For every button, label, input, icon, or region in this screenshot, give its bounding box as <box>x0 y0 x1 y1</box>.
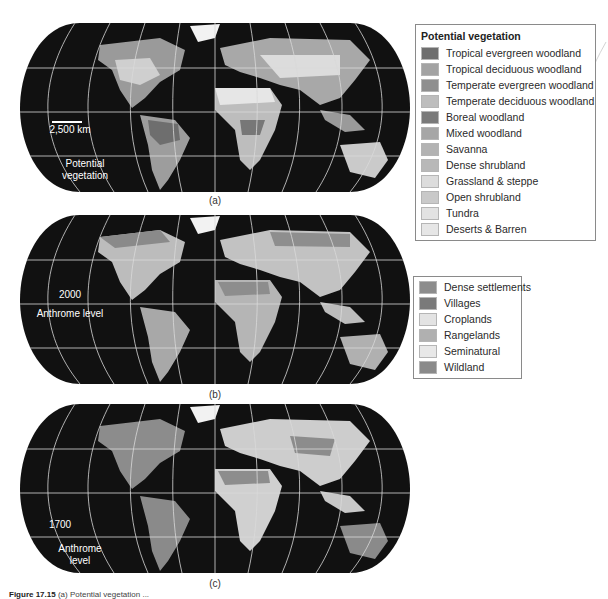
swatch-tropical-evergreen <box>421 47 439 60</box>
legend-item: Mixed woodland <box>421 125 591 141</box>
map-c-subtitle-line1: Anthrome <box>50 543 110 555</box>
map-a-title-line2: vegetation <box>50 170 120 182</box>
legend-item: Tropical evergreen woodland <box>421 45 591 61</box>
map-a-title-line1: Potential <box>50 158 120 170</box>
legend-item: Tundra <box>421 205 591 221</box>
legend-item: Rangelands <box>419 327 517 343</box>
swatch-dense-shrubland <box>421 159 439 172</box>
scale-bar <box>52 121 82 123</box>
swatch-wildland <box>419 361 437 374</box>
legend-item: Wildland <box>419 359 517 375</box>
figure-caption: Figure 17.15 (a) Potential vegetation ..… <box>9 590 149 599</box>
panel-label-b: (b) <box>195 389 235 400</box>
swatch-temperate-deciduous <box>421 95 439 108</box>
legend-anthromes: Dense settlements Villages Croplands Ran… <box>413 276 522 379</box>
swatch-boreal <box>421 111 439 124</box>
legend-item: Savanna <box>421 141 591 157</box>
legend-item: Croplands <box>419 311 517 327</box>
panel-label-a: (a) <box>195 195 235 206</box>
legend-item: Seminatural <box>419 343 517 359</box>
swatch-deserts <box>421 223 439 236</box>
legend-item: Temperate evergreen woodland <box>421 77 591 93</box>
swatch-croplands <box>419 313 437 326</box>
map-c-year: 1700 <box>40 519 80 531</box>
figure-number: Figure 17.15 <box>9 590 56 599</box>
legend-item: Dense shrubland <box>421 157 591 173</box>
swatch-tundra <box>421 207 439 220</box>
map-c-subtitle-line2: level <box>50 555 110 567</box>
swatch-rangelands <box>419 329 437 342</box>
legend-potential-vegetation: Potential vegetation Tropical evergreen … <box>415 24 596 241</box>
swatch-tropical-deciduous <box>421 63 439 76</box>
swatch-grassland <box>421 175 439 188</box>
map-b-subtitle: Anthrome level <box>30 308 110 320</box>
scale-bar-label: 2,500 km <box>40 124 100 136</box>
figure-caption-text: (a) Potential vegetation ... <box>58 590 149 599</box>
legend-title: Potential vegetation <box>421 30 591 42</box>
swatch-villages <box>419 297 437 310</box>
swatch-savanna <box>421 143 439 156</box>
legend-item: Villages <box>419 295 517 311</box>
legend-item: Deserts & Barren <box>421 221 591 237</box>
legend-item: Tropical deciduous woodland <box>421 61 591 77</box>
legend-item: Boreal woodland <box>421 109 591 125</box>
swatch-dense-settlements <box>419 281 437 294</box>
map-b-year: 2000 <box>45 289 95 301</box>
swatch-open-shrubland <box>421 191 439 204</box>
legend-item: Temperate deciduous woodland <box>421 93 591 109</box>
panel-label-c: (c) <box>195 578 235 589</box>
swatch-mixed <box>421 127 439 140</box>
legend-item: Open shrubland <box>421 189 591 205</box>
legend-item: Dense settlements <box>419 279 517 295</box>
swatch-temperate-evergreen <box>421 79 439 92</box>
swatch-seminatural <box>419 345 437 358</box>
legend-item: Grassland & steppe <box>421 173 591 189</box>
